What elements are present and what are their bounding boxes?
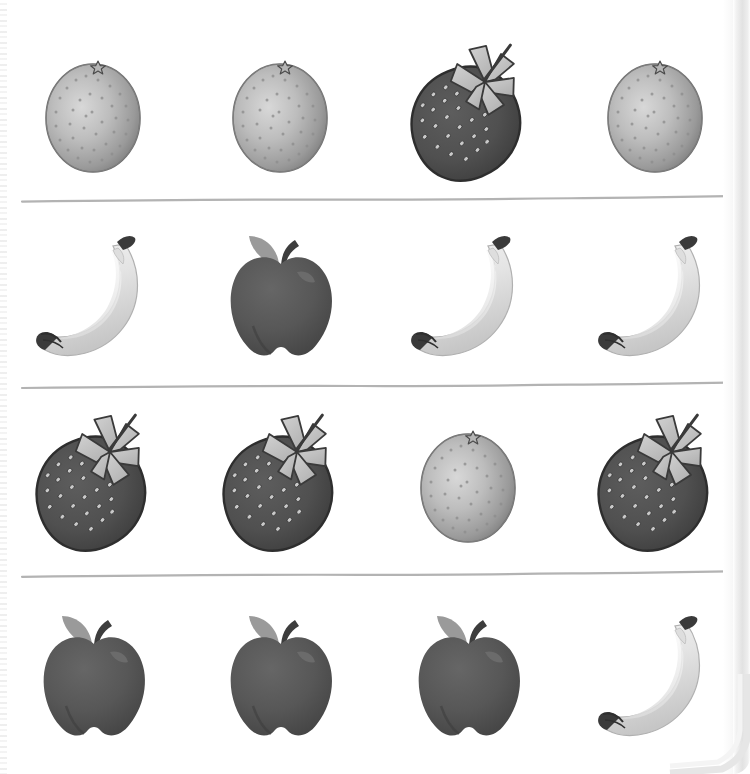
apple-icon <box>219 602 343 748</box>
fruit-cell[interactable] <box>375 30 563 195</box>
apple-icon <box>219 222 343 368</box>
fruit-cell[interactable] <box>375 210 563 380</box>
fruit-cell[interactable] <box>375 590 563 760</box>
banana-icon <box>394 220 544 370</box>
orange-icon <box>227 50 335 176</box>
fruit-cell[interactable] <box>0 210 188 380</box>
fruit-cell[interactable] <box>375 398 563 568</box>
fruit-cell[interactable] <box>563 398 750 568</box>
fruit-cell[interactable] <box>188 590 376 760</box>
apple-icon <box>407 602 531 748</box>
strawberry-icon <box>211 408 351 558</box>
banana-icon <box>19 220 169 370</box>
strawberry-icon <box>24 408 164 558</box>
banana-icon <box>581 220 731 370</box>
fruit-row-4 <box>0 590 750 760</box>
row-divider-line <box>0 378 750 392</box>
worksheet-page <box>0 0 750 774</box>
strawberry-icon <box>586 408 726 558</box>
apple-icon <box>32 602 156 748</box>
strawberry-icon <box>399 38 539 188</box>
orange-icon <box>602 50 710 176</box>
fruit-cell[interactable] <box>563 590 750 760</box>
fruit-cell[interactable] <box>563 30 750 195</box>
banana-icon <box>581 600 731 750</box>
row-divider-line <box>0 569 750 583</box>
fruit-row-1 <box>0 30 750 195</box>
fruit-row-3 <box>0 398 750 568</box>
orange-icon <box>40 50 148 176</box>
fruit-cell[interactable] <box>188 398 376 568</box>
fruit-cell[interactable] <box>0 590 188 760</box>
fruit-cell[interactable] <box>0 398 188 568</box>
row-divider-line <box>0 193 750 207</box>
fruit-cell[interactable] <box>0 30 188 195</box>
fruit-row-2 <box>0 210 750 380</box>
orange-icon <box>415 420 523 546</box>
fruit-cell[interactable] <box>188 210 376 380</box>
fruit-cell[interactable] <box>563 210 750 380</box>
fruit-cell[interactable] <box>188 30 376 195</box>
